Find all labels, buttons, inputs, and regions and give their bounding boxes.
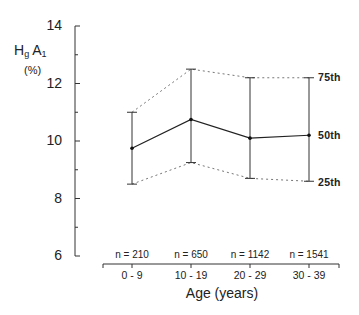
p75-line — [132, 69, 309, 112]
percentile-label-75: 75th — [318, 71, 341, 83]
sample-size-label: n = 650 — [161, 249, 221, 260]
median-point — [248, 136, 252, 140]
x-category-label: 20 - 29 — [220, 269, 280, 281]
y-tick-label: 6 — [38, 247, 62, 263]
p25-line — [132, 163, 309, 185]
median-point — [307, 133, 311, 137]
x-category-label: 0 - 9 — [102, 269, 162, 281]
percentile-label-25: 25th — [318, 176, 341, 188]
y-axis-title: Hg A1 — [14, 42, 47, 59]
percentile-label-50: 50th — [318, 129, 341, 141]
y-tick-label: 14 — [38, 17, 62, 33]
median-point — [130, 146, 134, 150]
sample-size-label: n = 1541 — [279, 249, 339, 260]
y-tick-label: 12 — [38, 75, 62, 91]
y-tick-label: 8 — [38, 190, 62, 206]
x-axis-title: Age (years) — [152, 285, 292, 301]
median-line — [132, 119, 309, 148]
x-category-label: 10 - 19 — [161, 269, 221, 281]
y-tick-label: 10 — [38, 132, 62, 148]
sample-size-label: n = 1142 — [220, 249, 280, 260]
sample-size-label: n = 210 — [102, 249, 162, 260]
x-category-label: 30 - 39 — [279, 269, 339, 281]
median-point — [189, 118, 193, 122]
chart-canvas — [0, 0, 359, 315]
